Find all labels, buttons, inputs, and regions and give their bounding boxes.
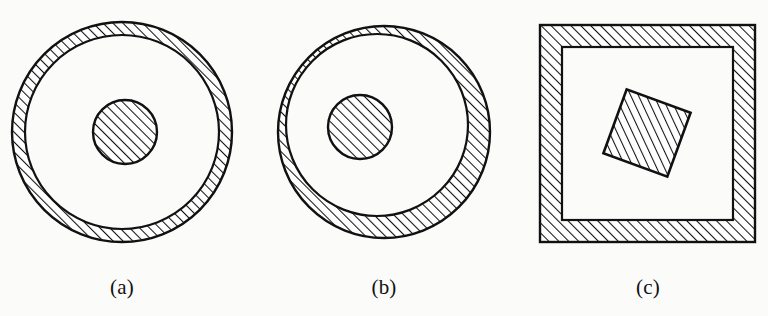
figure-page: (a) (b) (c) xyxy=(0,0,768,316)
caption-figure-a: (a) xyxy=(87,277,157,298)
figure-canvas xyxy=(0,0,768,316)
figure-c xyxy=(0,0,768,316)
caption-figure-b: (b) xyxy=(349,277,419,298)
caption-figure-c: (c) xyxy=(613,277,683,298)
